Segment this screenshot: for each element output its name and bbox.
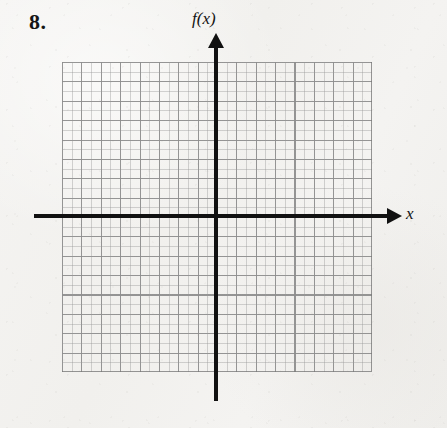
y-axis-arrow-icon — [208, 33, 224, 48]
y-axis-label: f(x) — [192, 10, 216, 27]
x-axis-line — [34, 214, 389, 218]
y-axis-line — [214, 46, 218, 401]
x-axis-arrow-icon — [387, 208, 402, 224]
x-axis-label: x — [406, 205, 414, 222]
coordinate-graph: f(x) x — [0, 0, 447, 428]
worksheet-page: 8. f(x) x — [0, 0, 447, 428]
